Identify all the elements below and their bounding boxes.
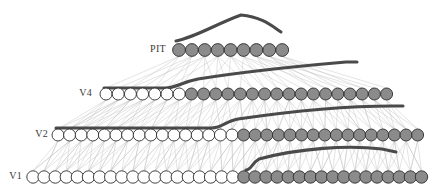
neuron-node-v2-29-active — [388, 129, 400, 141]
connection-line — [333, 141, 337, 171]
neuron-node-v1-29-active — [349, 171, 361, 183]
connection-bundle-v1-to-v2 — [33, 141, 422, 171]
node-row-v4 — [100, 88, 393, 100]
connection-line — [174, 100, 216, 129]
neuron-node-v4-16-active — [295, 88, 307, 100]
neuron-node-v2-1-inactive — [64, 129, 76, 141]
connection-line — [66, 141, 104, 171]
neuron-node-v1-11-inactive — [149, 171, 161, 183]
neuron-node-v4-4-inactive — [149, 88, 161, 100]
neuron-node-v4-19-active — [332, 88, 344, 100]
neuron-node-v2-27-active — [365, 129, 377, 141]
connection-line — [162, 100, 203, 129]
neuron-node-pit-4-active — [224, 44, 237, 57]
neuron-node-pit-1-active — [186, 44, 199, 57]
connection-line — [374, 100, 406, 129]
connection-line — [232, 100, 252, 129]
neuron-node-v1-14-inactive — [182, 171, 194, 183]
connection-line — [278, 141, 288, 171]
neuron-node-pit-5-active — [237, 44, 250, 57]
neuron-node-v2-20-active — [284, 129, 296, 141]
connection-line — [277, 141, 290, 171]
neuron-node-v1-22-active — [271, 171, 283, 183]
neuron-node-v2-22-active — [307, 129, 319, 141]
neuron-node-v1-1-inactive — [38, 171, 50, 183]
neuron-node-v2-9-inactive — [156, 129, 168, 141]
neuron-node-v1-25-active — [304, 171, 316, 183]
node-row-v2 — [52, 129, 424, 141]
neuron-node-v1-33-active — [393, 171, 405, 183]
neuron-node-v2-31-active — [412, 129, 424, 141]
neuron-node-v1-16-inactive — [204, 171, 216, 183]
node-row-pit — [173, 44, 289, 57]
connection-line — [122, 141, 151, 171]
connection-line — [322, 141, 325, 171]
layer-label-v1: V1 — [9, 170, 22, 181]
connection-line — [362, 100, 383, 129]
neuron-node-v1-34-active — [404, 171, 416, 183]
connection-line — [301, 100, 325, 129]
neuron-node-v1-7-inactive — [105, 171, 117, 183]
connection-line — [70, 100, 119, 129]
neuron-node-v1-0-inactive — [27, 171, 39, 183]
connection-line — [232, 100, 240, 129]
neuron-node-v2-25-active — [342, 129, 354, 141]
connection-line — [89, 141, 128, 171]
neuron-node-v2-13-inactive — [203, 129, 215, 141]
neuron-node-v4-23-active — [381, 88, 393, 100]
connection-line — [269, 56, 313, 88]
connection-line — [166, 141, 185, 171]
neuron-node-v1-27-active — [327, 171, 339, 183]
connection-line — [144, 141, 174, 171]
neuron-node-v4-18-active — [320, 88, 332, 100]
connection-line — [313, 141, 321, 171]
neuron-node-pit-6-active — [250, 44, 263, 57]
connection-line — [216, 56, 218, 88]
neuron-node-v1-32-active — [382, 171, 394, 183]
neuron-node-v4-11-active — [234, 88, 246, 100]
neuron-node-v4-14-active — [271, 88, 283, 100]
connection-line — [44, 141, 81, 171]
neuron-node-v1-15-inactive — [193, 171, 205, 183]
neuron-node-v4-6-inactive — [173, 88, 185, 100]
neuron-node-pit-3-active — [211, 44, 224, 57]
connection-line — [200, 141, 221, 171]
neuron-node-v1-23-active — [282, 171, 294, 183]
neuron-node-v2-15-inactive — [226, 129, 238, 141]
neuron-node-v4-0-inactive — [100, 88, 112, 100]
neuron-node-v2-18-active — [261, 129, 273, 141]
connection-line — [348, 100, 350, 129]
connection-line — [399, 141, 406, 171]
connection-line — [388, 141, 394, 171]
neuron-node-v4-13-active — [259, 88, 271, 100]
connection-line — [313, 100, 324, 129]
diagram-canvas: V1V2V4PIT — [0, 0, 441, 192]
neuron-node-pit-0-active — [173, 44, 186, 57]
connection-line — [44, 141, 70, 171]
connection-line — [288, 141, 313, 171]
neuron-node-v2-28-active — [377, 129, 389, 141]
neuron-node-v1-6-inactive — [93, 171, 105, 183]
neuron-node-v2-8-inactive — [145, 129, 157, 141]
neuron-node-v2-16-active — [238, 129, 250, 141]
connection-line — [244, 100, 253, 129]
neuron-node-v2-11-inactive — [180, 129, 192, 141]
neuron-node-v2-2-inactive — [75, 129, 87, 141]
neuron-node-v2-4-inactive — [98, 129, 110, 141]
node-row-v1 — [27, 171, 428, 183]
connection-line — [197, 100, 216, 129]
pit-tuning-curve — [176, 15, 281, 41]
connection-line — [33, 141, 70, 171]
neuron-node-v2-6-inactive — [122, 129, 134, 141]
neuron-node-v1-2-inactive — [49, 171, 61, 183]
neuron-node-v4-9-active — [210, 88, 222, 100]
connection-line — [233, 141, 244, 171]
neuron-node-v2-5-inactive — [110, 129, 122, 141]
connection-line — [410, 141, 417, 171]
connection-line — [222, 141, 232, 171]
neuron-node-v2-7-inactive — [133, 129, 145, 141]
neuron-node-v4-2-inactive — [124, 88, 136, 100]
neuron-node-v2-3-inactive — [87, 129, 99, 141]
neuron-node-v4-20-active — [344, 88, 356, 100]
neuron-node-v2-24-active — [330, 129, 342, 141]
